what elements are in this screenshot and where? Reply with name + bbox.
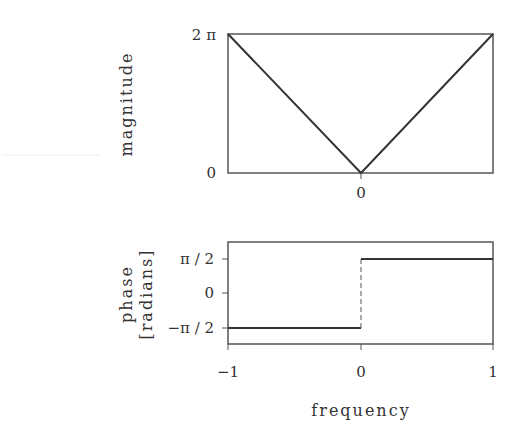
phase-ytick-label-zero: 0 — [204, 284, 214, 302]
magnitude-ytick-zero: 0 — [206, 164, 216, 182]
phase-axis-label-line2: [radians] — [137, 248, 156, 339]
magnitude-axis-label: magnitude — [117, 52, 136, 157]
magnitude-panel: 2 π 0 0 magnitude — [117, 26, 493, 202]
phase-xtick-label-zero: 0 — [356, 363, 366, 381]
phase-ytick-label-neg-pi2: −π / 2 — [167, 319, 214, 337]
phase-xtick-label-neg1: −1 — [217, 363, 239, 381]
figure: 2 π 0 0 magnitude π / 2 0 −π / 2 −1 0 1 … — [0, 0, 522, 432]
frequency-axis-label: frequency — [311, 401, 410, 420]
magnitude-curve — [228, 34, 493, 173]
phase-axis-label-line1: phase — [117, 265, 136, 323]
magnitude-ytick-2pi: 2 π — [192, 26, 216, 44]
phase-panel: π / 2 0 −π / 2 −1 0 1 phase [radians] fr… — [117, 242, 498, 420]
phase-ytick-label-pi2: π / 2 — [180, 250, 214, 268]
magnitude-plot-frame — [228, 34, 493, 173]
magnitude-xtick-label-zero: 0 — [356, 184, 366, 202]
phase-xtick-label-pos1: 1 — [488, 363, 498, 381]
